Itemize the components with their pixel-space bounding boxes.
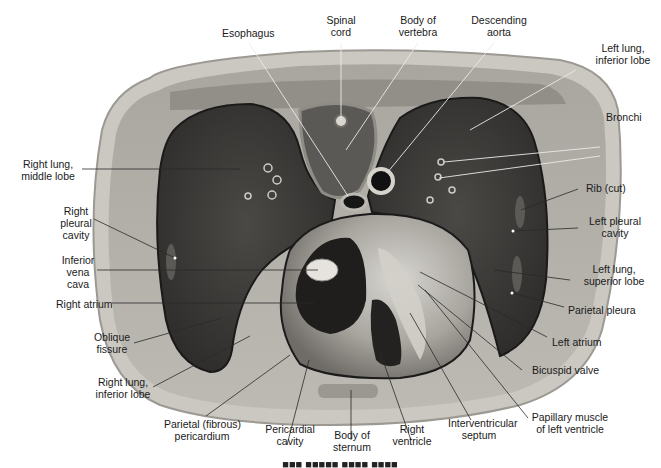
label-right-atrium: Right atrium	[56, 298, 113, 310]
label-line: Right lung,	[18, 158, 78, 170]
label-line: Left lung,	[585, 42, 661, 54]
label-line: vertebra	[394, 26, 442, 38]
label-line: Spinal	[322, 14, 360, 26]
label-oblique-fissure: Oblique fissure	[92, 331, 132, 355]
sternum	[318, 384, 378, 398]
label-parietal-pleura: Parietal pleura	[568, 304, 636, 316]
label-line: Right lung,	[94, 376, 152, 388]
label-line: fissure	[92, 343, 132, 355]
label-line: middle lobe	[18, 170, 78, 182]
label-line: inferior lobe	[585, 54, 661, 66]
label-line: Body of	[330, 429, 374, 441]
label-line: cavity	[580, 227, 650, 239]
label-esophagus: Esophagus	[222, 27, 275, 39]
label-right-ventricle: Right ventricle	[390, 423, 434, 447]
label-bicuspid-valve: Bicuspid valve	[532, 364, 599, 376]
label-line: of left ventricle	[530, 423, 610, 435]
label-left-lung-inferior-lobe: Left lung, inferior lobe	[585, 42, 661, 66]
label-right-lung-inferior-lobe: Right lung, inferior lobe	[94, 376, 152, 400]
label-line: cavity	[265, 435, 315, 447]
label-line: Left pleural	[580, 215, 650, 227]
label-spinal-cord: Spinal cord	[322, 14, 360, 38]
label-line: Inferior	[60, 254, 96, 266]
label-papillary-muscle: Papillary muscle of left ventricle	[530, 411, 610, 435]
label-line: Descending	[469, 14, 529, 26]
label-interventricular-septum: Interventricular septum	[448, 417, 510, 441]
label-line: Parietal (fibrous)	[164, 418, 240, 430]
label-line: Left lung,	[574, 263, 654, 275]
label-parietal-fibrous-pericardium: Parietal (fibrous) pericardium	[164, 418, 240, 442]
descending-aorta	[369, 169, 393, 193]
label-line: Right	[390, 423, 434, 435]
label-line: vena	[60, 266, 96, 278]
label-line: inferior lobe	[94, 388, 152, 400]
label-line: cavity	[58, 229, 94, 241]
label-line: aorta	[469, 26, 529, 38]
figure-caption-cropped: ■■■ ■■■■■ ■■■■ ■■■■	[230, 458, 450, 468]
label-line: Pericardial	[265, 423, 315, 435]
label-line: Papillary muscle	[530, 411, 610, 423]
label-body-of-sternum: Body of sternum	[330, 429, 374, 453]
label-left-lung-superior-lobe: Left lung, superior lobe	[574, 263, 654, 287]
label-descending-aorta: Descending aorta	[469, 14, 529, 38]
label-line: ventricle	[390, 435, 434, 447]
label-line: cava	[60, 278, 96, 290]
label-right-pleural-cavity: Right pleural cavity	[58, 205, 94, 241]
label-line: sternum	[330, 441, 374, 453]
esophagus	[342, 194, 366, 210]
label-line: Oblique	[92, 331, 132, 343]
thorax-section-figure: Esophagus Spinal cord Body of vertebra D…	[0, 0, 661, 468]
label-body-of-vertebra: Body of vertebra	[394, 14, 442, 38]
label-line: Body of	[394, 14, 442, 26]
label-right-lung-middle-lobe: Right lung, middle lobe	[18, 158, 78, 182]
label-pericardial-cavity: Pericardial cavity	[265, 423, 315, 447]
label-line: septum	[448, 429, 510, 441]
label-bronchi: Bronchi	[606, 111, 642, 123]
label-inferior-vena-cava: Inferior vena cava	[60, 254, 96, 290]
label-line: cord	[322, 26, 360, 38]
label-line: Right	[58, 205, 94, 217]
label-rib-cut: Rib (cut)	[586, 182, 626, 194]
label-line: Interventricular	[448, 417, 510, 429]
label-left-pleural-cavity: Left pleural cavity	[580, 215, 650, 239]
label-line: pleural	[58, 217, 94, 229]
label-left-atrium: Left atrium	[552, 336, 602, 348]
label-line: superior lobe	[574, 275, 654, 287]
label-line: pericardium	[164, 430, 240, 442]
